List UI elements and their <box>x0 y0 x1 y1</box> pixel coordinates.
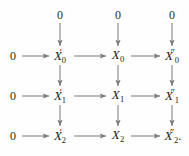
node-row1-x-prime: X′1 <box>54 88 66 105</box>
node-row1-x: X1 <box>112 88 125 103</box>
node-row2-x-double-prime: X″2. <box>164 128 181 145</box>
arrow-layer <box>0 0 189 156</box>
node-top-zero-middle-column: 0 <box>115 9 121 21</box>
subscript: 1 <box>62 95 66 105</box>
node-base: X <box>112 47 120 62</box>
double-prime-mark: ″ <box>170 127 174 138</box>
trailing-period: . <box>178 129 181 143</box>
subscript: 0 <box>175 55 179 65</box>
node-base: X <box>112 127 120 142</box>
subscript: 0 <box>120 54 124 64</box>
node-row0-zero: 0 <box>10 50 16 62</box>
node-row0-x-prime: X′0 <box>54 48 66 65</box>
double-prime-mark: ″ <box>171 87 175 98</box>
node-row2-x: X2 <box>112 128 125 143</box>
commutative-diagram: 0 0 0 0 X′0 X0 X″0 0 X′1 X1 X″1 0 X′2 X2… <box>0 0 189 156</box>
node-row2-zero: 0 <box>10 130 16 142</box>
subscript: 0 <box>62 55 66 65</box>
node-row1-zero: 0 <box>10 90 16 102</box>
node-row2-x-prime: X′2 <box>54 128 66 145</box>
subscript: 2 <box>120 134 124 144</box>
node-base: X <box>112 87 120 102</box>
subscript: 2 <box>62 135 66 145</box>
double-prime-mark: ″ <box>171 47 175 58</box>
subscript: 1 <box>120 94 124 104</box>
node-row0-x: X0 <box>112 48 125 63</box>
node-row0-x-double-prime: X″0 <box>165 48 179 65</box>
subscript: 1 <box>175 95 179 105</box>
node-row1-x-double-prime: X″1 <box>165 88 179 105</box>
node-top-zero-double-prime-column: 0 <box>169 9 175 21</box>
node-top-zero-prime-column: 0 <box>57 9 63 21</box>
